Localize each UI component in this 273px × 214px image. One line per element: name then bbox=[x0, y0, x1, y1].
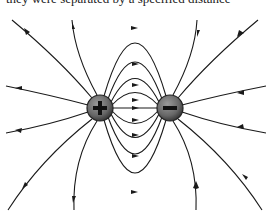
field-lines-connecting-top bbox=[104, 43, 166, 108]
field-lines-negative-inward bbox=[173, 20, 266, 210]
field-lines-positive-outward bbox=[6, 20, 97, 210]
positive-charge bbox=[87, 95, 113, 121]
arrowheads-connecting bbox=[131, 26, 139, 194]
negative-charge bbox=[157, 95, 183, 121]
dipole-field-diagram bbox=[0, 0, 273, 214]
